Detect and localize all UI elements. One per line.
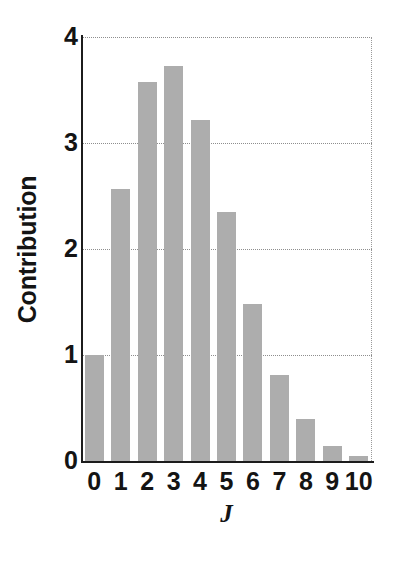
- bar-j-2: [138, 82, 157, 461]
- bar-j-8: [296, 419, 315, 461]
- y-axis-tick-labels: 01234: [44, 0, 78, 561]
- bar-j-9: [323, 446, 342, 461]
- x-axis-tick-labels: 012345678910: [81, 468, 372, 500]
- bar-j-4: [191, 120, 210, 461]
- y-tick-label-4: 4: [44, 24, 78, 50]
- bar-j-7: [270, 375, 289, 461]
- y-tick-label-2: 2: [44, 236, 78, 262]
- x-axis-title: J: [81, 500, 372, 528]
- bar-chart-figure: Contribution 01234 012345678910 J: [0, 0, 401, 561]
- bar-j-3: [164, 66, 183, 461]
- bar-j-6: [243, 304, 262, 461]
- y-tick-label-3: 3: [44, 130, 78, 156]
- bar-j-1: [111, 189, 130, 461]
- y-tick-label-1: 1: [44, 342, 78, 368]
- bar-series-contribution: [81, 37, 372, 461]
- x-axis-spine: [81, 461, 374, 463]
- y-axis-title-text: Contribution: [14, 175, 43, 323]
- y-tick-label-0: 0: [44, 448, 78, 474]
- x-tick-label-10: 10: [339, 468, 379, 494]
- bar-j-0: [85, 355, 104, 461]
- bar-j-5: [217, 212, 236, 461]
- bar-j-10: [349, 456, 368, 461]
